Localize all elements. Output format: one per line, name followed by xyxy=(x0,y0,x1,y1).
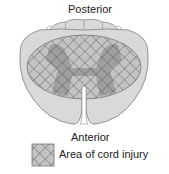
anterior-label: Anterior xyxy=(71,131,110,143)
posterior-label: Posterior xyxy=(68,3,112,15)
legend-swatch xyxy=(30,142,56,168)
legend-label: Area of cord injury xyxy=(59,148,148,160)
